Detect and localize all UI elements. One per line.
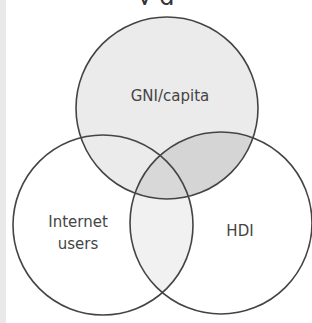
gni-label: GNI/capita <box>131 87 210 105</box>
venn-diagram: GNI/capita Internet users HDI <box>0 0 312 323</box>
hdi-label: HDI <box>226 222 253 240</box>
internet-label-line2: users <box>58 235 99 253</box>
internet-label-line1: Internet <box>48 213 108 231</box>
